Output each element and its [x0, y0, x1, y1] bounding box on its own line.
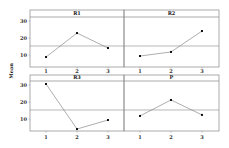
panel-title: R2 [168, 10, 176, 16]
panel-p: P123 [124, 74, 219, 139]
data-point [45, 56, 47, 58]
data-point [201, 30, 203, 32]
series-line [46, 33, 108, 57]
x-tick-label: 1 [138, 134, 141, 140]
y-tick-label: 20 [20, 35, 27, 41]
panel-title: P [170, 74, 174, 80]
series-line [46, 84, 108, 129]
series-line [140, 100, 202, 116]
data-point [76, 32, 78, 34]
panel-title: R3 [73, 74, 81, 80]
y-tick-label: 10 [20, 116, 27, 122]
data-point [139, 55, 141, 57]
x-tick-label: 1 [44, 134, 47, 140]
data-point [170, 51, 172, 53]
x-tick-label: 2 [169, 134, 173, 140]
x-tick-label: 3 [106, 68, 110, 74]
x-tick-label: 2 [75, 134, 79, 140]
x-tick-label: 2 [75, 68, 79, 74]
data-point [45, 83, 47, 85]
x-tick-label: 1 [138, 68, 141, 74]
data-point [201, 114, 203, 116]
x-tick-label: 2 [169, 68, 173, 74]
y-axis-label: Mean [8, 63, 14, 79]
panel-chart: MeanR1123102030R2123R3123102030P123 [0, 0, 229, 148]
x-tick-label: 1 [44, 68, 47, 74]
x-tick-label: 3 [106, 134, 110, 140]
panel-r2: R2123 [124, 10, 219, 74]
data-point [107, 119, 109, 121]
data-point [76, 128, 78, 130]
data-point [170, 99, 172, 101]
y-tick-label: 20 [20, 99, 27, 105]
panel-r3: R3123102030 [20, 74, 124, 139]
panel-title: R1 [73, 10, 81, 16]
y-tick-label: 10 [20, 52, 27, 58]
x-tick-label: 3 [200, 68, 204, 74]
panel-r1: R1123102030 [20, 10, 124, 74]
data-point [139, 115, 141, 117]
x-tick-label: 3 [200, 134, 204, 140]
y-tick-label: 30 [20, 82, 27, 88]
data-point [107, 47, 109, 49]
y-tick-label: 30 [20, 18, 27, 24]
